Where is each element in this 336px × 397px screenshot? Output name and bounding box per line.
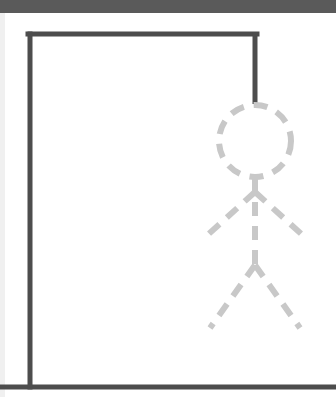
figure-left-leg bbox=[210, 265, 255, 328]
figure-head bbox=[219, 105, 291, 177]
hangman-canvas bbox=[0, 0, 336, 397]
figure-right-leg bbox=[255, 265, 300, 328]
figure-right-arm bbox=[255, 192, 308, 240]
gallows bbox=[0, 32, 336, 387]
figure-left-arm bbox=[202, 192, 255, 240]
hangman-figure bbox=[202, 105, 308, 328]
